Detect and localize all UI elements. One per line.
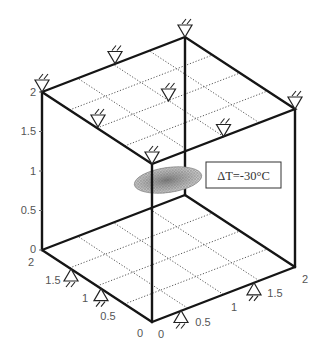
bottom-supports [64,269,261,329]
x-tick-label: 2 [302,273,308,285]
y-tick-label: 0 [137,327,143,339]
temperature-annotation: ΔT=-30°C [206,162,281,188]
y-tick-label: 1 [82,292,88,304]
x-tick-label: 0.5 [195,316,210,328]
y-tick-label: 2 [28,256,34,268]
ellipsoid-inclusion [133,163,204,197]
annotation-text: ΔT=-30°C [217,169,270,183]
support-icon [178,19,192,37]
z-axis-labels: 2 1.5 1 0.5 0 [21,86,36,255]
x-tick-label: 1.5 [267,287,282,299]
z-tick-label: 2 [30,86,36,98]
top-supports [35,19,302,164]
cube-diagram: 2 1.5 1 0.5 0 2 1.5 1 0.5 0 0 0.5 1 1.5 … [0,0,323,359]
y-tick-label: 0.5 [100,310,115,322]
x-tick-label: 0 [158,328,164,340]
diagram-canvas: 2 1.5 1 0.5 0 2 1.5 1 0.5 0 0 0.5 1 1.5 … [0,0,323,359]
cube-back-edges [42,37,295,267]
z-tick-label: 0 [30,243,36,255]
z-tick-label: 1 [30,165,36,177]
x-axis-labels: 0 0.5 1 1.5 2 [158,273,308,340]
y-axis-labels: 2 1.5 1 0.5 0 [28,256,143,339]
y-tick-label: 1.5 [45,274,60,286]
z-tick-label: 1.5 [21,125,36,137]
x-tick-label: 1 [231,301,237,313]
z-tick-label: 0.5 [21,204,36,216]
